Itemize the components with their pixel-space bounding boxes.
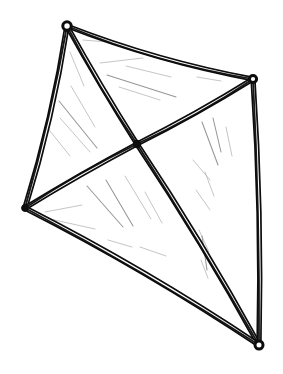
center-vertex	[133, 140, 141, 148]
bottom-vertex	[255, 341, 263, 349]
sketch-canvas	[0, 0, 283, 374]
polyhedron-sketch	[0, 0, 283, 374]
right-vertex	[249, 75, 256, 82]
top-vertex	[63, 22, 71, 30]
left-vertex	[22, 205, 29, 212]
